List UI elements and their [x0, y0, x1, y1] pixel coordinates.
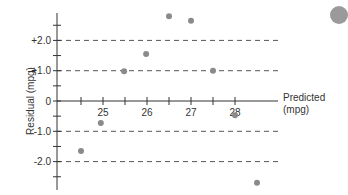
x-axis-label-line-1: Predicted	[283, 92, 325, 104]
data-point	[254, 180, 260, 186]
data-point	[121, 68, 127, 74]
x-axis-label-line-2: (mpg)	[283, 104, 325, 116]
data-point	[210, 68, 216, 74]
cropped-marker	[330, 6, 348, 24]
y-tick-label: -1.0	[34, 126, 52, 137]
data-point	[98, 120, 104, 126]
y-tick-label: 0	[45, 96, 51, 107]
data-point	[143, 51, 149, 57]
x-tick-label: 26	[141, 107, 153, 118]
data-point	[78, 148, 84, 154]
y-axis-label: Residual (mpg)	[25, 67, 36, 135]
data-point	[188, 18, 194, 24]
y-tick-label: +2.0	[31, 35, 51, 46]
data-point	[166, 13, 172, 19]
x-axis-label: Predicted (mpg)	[283, 92, 325, 116]
data-point	[232, 112, 238, 118]
axes	[57, 13, 278, 190]
y-tick-label: -2.0	[34, 156, 52, 167]
x-tick-label: 25	[97, 107, 109, 118]
x-tick-label: 27	[185, 107, 197, 118]
